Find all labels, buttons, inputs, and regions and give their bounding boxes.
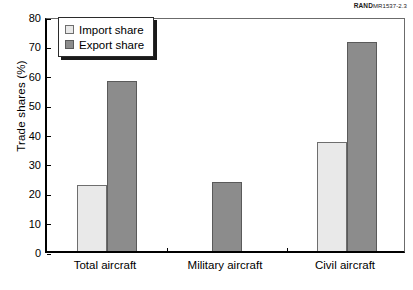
legend-item[interactable]: Export share — [65, 37, 144, 52]
legend-item-label: Import share — [79, 24, 144, 36]
y-axis-tick-mark — [47, 165, 51, 166]
legend-swatch-export-icon — [65, 40, 74, 49]
y-axis-tick-mark — [47, 107, 51, 108]
bar-export-share-total-aircraft — [107, 81, 137, 251]
y-axis-tick-label: 0 — [35, 247, 41, 259]
x-axis-tick-mark — [287, 248, 288, 252]
y-axis-tick-mark — [47, 48, 51, 49]
y-axis-tick-label: 20 — [29, 188, 41, 200]
bar-export-share-civil-aircraft — [347, 42, 377, 251]
y-axis-tick-mark — [47, 195, 51, 196]
x-axis-category-label: Military aircraft — [165, 259, 285, 271]
bar-import-share-total-aircraft — [77, 185, 107, 251]
legend-item-label: Export share — [79, 39, 144, 51]
y-axis-tick-label: 40 — [29, 130, 41, 142]
y-axis-tick-mark — [47, 224, 51, 225]
legend-item[interactable]: Import share — [65, 22, 144, 37]
rand-brand-mark: RAND — [354, 2, 373, 9]
y-axis-tick-mark — [47, 136, 51, 137]
y-axis-tick-label: 60 — [29, 71, 41, 83]
x-axis-category-label: Civil aircraft — [285, 259, 405, 271]
y-axis-tick-mark — [47, 19, 51, 20]
document-number: MR1537-2.3 — [373, 3, 407, 9]
x-axis-tick-mark — [167, 248, 168, 252]
y-axis-tick-label: 70 — [29, 41, 41, 53]
bar-import-share-civil-aircraft — [317, 142, 347, 251]
y-axis-tick-mark — [47, 254, 51, 255]
legend-swatch-import-icon — [65, 25, 74, 34]
y-axis-tick-label: 10 — [29, 218, 41, 230]
y-axis-tick-label: 80 — [29, 12, 41, 24]
x-axis-category-label: Total aircraft — [45, 259, 165, 271]
figure-source-id: RANDMR1537-2.3 — [354, 2, 407, 9]
y-axis-title: Trade shares (%) — [15, 31, 27, 181]
chart-figure: RANDMR1537-2.3 Trade shares (%) 01020304… — [0, 0, 413, 290]
chart-legend: Import shareExport share — [58, 17, 154, 57]
bar-export-share-military-aircraft — [212, 182, 242, 251]
y-axis-tick-label: 50 — [29, 100, 41, 112]
y-axis-tick-label: 30 — [29, 159, 41, 171]
y-axis-tick-mark — [47, 77, 51, 78]
